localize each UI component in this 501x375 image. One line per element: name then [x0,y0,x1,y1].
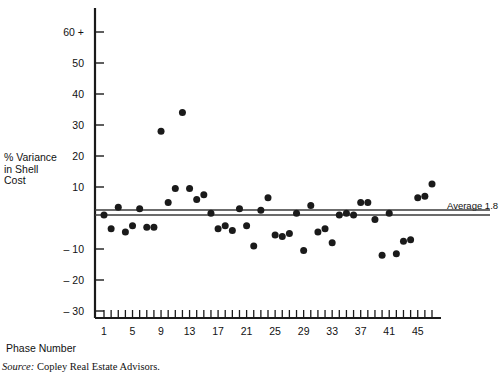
y-tick-label: 40 [72,88,84,100]
x-tick-label: 45 [412,325,424,337]
x-tick-label: 1 [101,325,107,337]
data-point [122,228,129,235]
y-tick-label: 20 [72,150,84,162]
data-point [222,222,229,229]
y-axis: 60 +5040302010– 10– 20– 30 [63,8,104,318]
data-point [236,205,243,212]
y-tick-label: – 30 [64,305,85,317]
data-point [329,239,336,246]
data-point [229,227,236,234]
x-tick-label: 37 [355,325,367,337]
data-point [150,224,157,231]
data-point [136,205,143,212]
data-point [207,210,214,217]
data-point [379,252,386,259]
x-tick-label: 9 [158,325,164,337]
data-point [350,211,357,218]
x-tick-label: 25 [269,325,281,337]
data-point [364,199,371,206]
data-point [165,199,172,206]
data-point [393,250,400,257]
data-point [200,191,207,198]
y-tick-label: – 10 [64,243,85,255]
data-point [193,196,200,203]
data-point [279,233,286,240]
x-tick-label: 41 [383,325,395,337]
x-tick-label: 17 [212,325,224,337]
x-tick-label: 13 [184,325,196,337]
x-axis: 159131721252933374145 [95,310,441,337]
data-point [179,109,186,116]
x-tick-label: 33 [326,325,338,337]
data-point [250,242,257,249]
data-point [293,210,300,217]
data-point [108,225,115,232]
data-point [407,236,414,243]
chart-figure: % Variance in Shell Cost Phase Number Av… [0,0,501,375]
data-point [158,128,165,135]
data-points [101,109,436,259]
data-point [307,202,314,209]
data-point [172,185,179,192]
data-point [414,194,421,201]
data-point [143,224,150,231]
data-point [186,185,193,192]
y-tick-label: 60 + [63,26,84,38]
data-point [343,210,350,217]
data-point [101,211,108,218]
data-point [371,216,378,223]
y-tick-label: 50 [72,57,84,69]
x-tick-label: 21 [241,325,253,337]
x-tick-label: 5 [130,325,136,337]
data-point [265,194,272,201]
y-tick-label: 10 [72,181,84,193]
data-point [421,193,428,200]
data-point [243,222,250,229]
data-point [257,207,264,214]
data-point [336,211,343,218]
average-reference-line [95,210,490,215]
data-point [386,210,393,217]
data-point [357,199,364,206]
data-point [129,222,136,229]
data-point [215,225,222,232]
data-point [429,180,436,187]
data-point [322,225,329,232]
y-tick-label: – 20 [64,274,85,286]
data-point [400,238,407,245]
data-point [272,232,279,239]
data-point [300,247,307,254]
data-point [286,230,293,237]
scatter-plot-canvas: 60 +5040302010– 10– 20– 30 1591317212529… [0,0,501,375]
x-tick-label: 29 [298,325,310,337]
data-point [115,204,122,211]
y-tick-label: 30 [72,119,84,131]
data-point [314,228,321,235]
